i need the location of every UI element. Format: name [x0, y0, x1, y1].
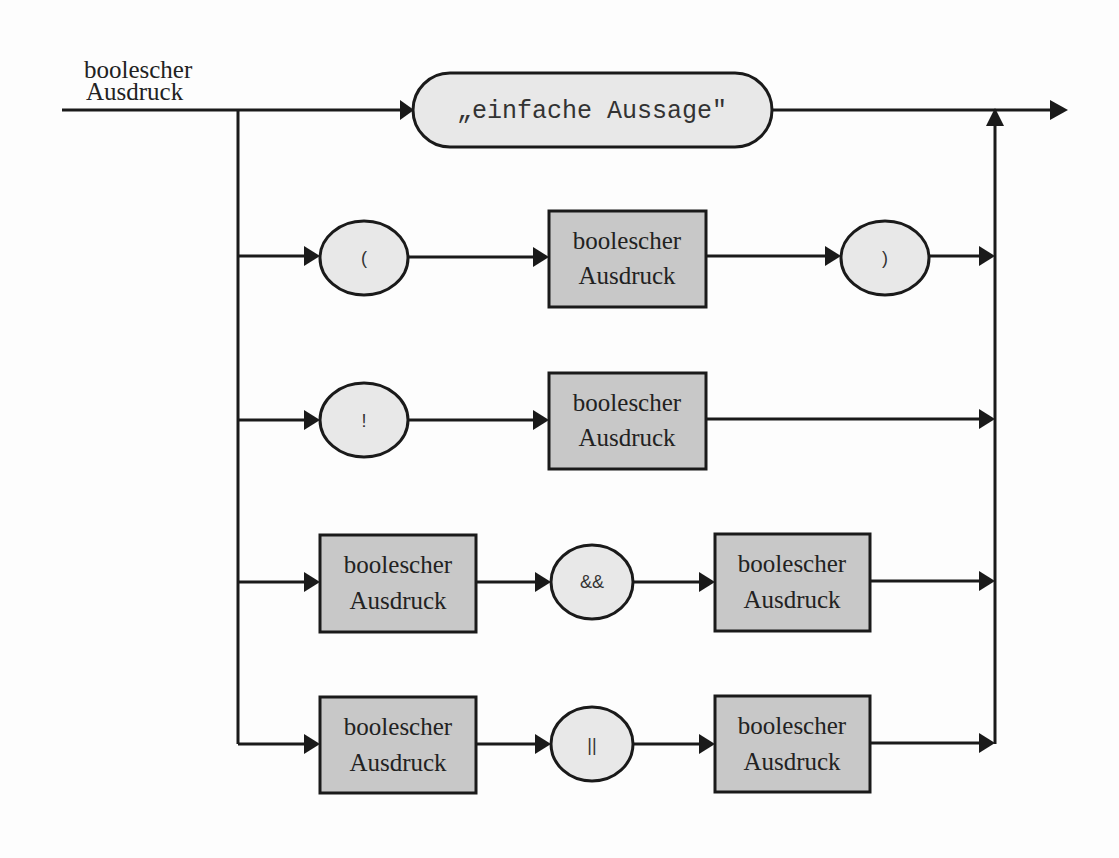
nonterminal-label-line1: boolescher: [573, 389, 682, 416]
arrow-icon: [979, 409, 995, 429]
exit-arrow-icon: [1050, 100, 1068, 120]
terminal-or-label: ||: [587, 735, 596, 755]
branch-negation: ! boolescher Ausdruck: [238, 373, 995, 469]
arrow-icon: [533, 410, 549, 430]
nonterminal-boolescher-ausdruck-right: [715, 534, 870, 631]
arrow-icon: [699, 734, 715, 754]
nonterminal-label-line2: Ausdruck: [743, 586, 841, 613]
nonterminal-label-line1: boolescher: [738, 550, 847, 577]
nonterminal-label-line1: boolescher: [738, 712, 847, 739]
nonterminal-label-line2: Ausdruck: [349, 749, 447, 776]
syntax-diagram: boolescher Ausdruck „einfache Aussage" (…: [0, 0, 1119, 858]
nonterminal-label-line1: boolescher: [344, 551, 453, 578]
arrow-icon: [304, 246, 320, 266]
nonterminal-boolescher-ausdruck: [549, 373, 706, 469]
branch-parenthesized: ( boolescher Ausdruck ): [238, 211, 995, 307]
arrow-icon: [533, 247, 549, 267]
terminal-einfache-aussage-label: „einfache Aussage": [457, 97, 727, 126]
nonterminal-boolescher-ausdruck-right: [715, 696, 870, 792]
arrow-icon: [979, 571, 995, 591]
arrow-icon: [304, 572, 320, 592]
branch-and: boolescher Ausdruck && boolescher Ausdru…: [238, 534, 995, 632]
arrow-icon: [699, 572, 715, 592]
terminal-and-label: &&: [580, 572, 604, 592]
nonterminal-label-line2: Ausdruck: [578, 424, 676, 451]
arrow-icon: [535, 734, 551, 754]
nonterminal-boolescher-ausdruck-left: [320, 697, 476, 793]
arrow-icon: [979, 733, 995, 753]
branch-simple: „einfache Aussage": [413, 73, 772, 147]
nonterminal-label-line2: Ausdruck: [578, 262, 676, 289]
terminal-not-label: !: [361, 411, 366, 431]
arrow-icon: [979, 246, 995, 266]
terminal-open-paren-label: (: [361, 248, 367, 268]
nonterminal-boolescher-ausdruck: [549, 211, 706, 307]
nonterminal-label-line1: boolescher: [573, 227, 682, 254]
entry-label-line2: Ausdruck: [86, 78, 184, 105]
nonterminal-label-line2: Ausdruck: [349, 587, 447, 614]
arrow-icon: [535, 572, 551, 592]
arrow-icon: [825, 246, 841, 266]
branch-or: boolescher Ausdruck || boolescher Ausdru…: [238, 696, 995, 793]
arrow-icon: [304, 734, 320, 754]
nonterminal-boolescher-ausdruck-left: [320, 535, 476, 632]
nonterminal-label-line1: boolescher: [344, 713, 453, 740]
terminal-close-paren-label: ): [882, 248, 888, 268]
nonterminal-label-line2: Ausdruck: [743, 748, 841, 775]
arrow-icon: [304, 410, 320, 430]
